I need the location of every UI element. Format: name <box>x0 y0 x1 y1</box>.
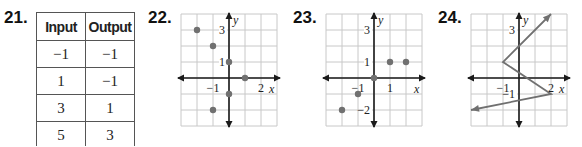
svg-text:1: 1 <box>219 55 225 69</box>
data-point <box>242 75 248 81</box>
data-point <box>194 27 200 33</box>
svg-text:x: x <box>268 82 275 96</box>
table-cell: 3 <box>86 122 135 147</box>
svg-text:y: y <box>522 13 529 27</box>
svg-text:−1: −1 <box>207 81 220 95</box>
table-cell: 1 <box>37 68 86 95</box>
data-point <box>339 107 345 113</box>
table-row: 31 <box>37 95 135 122</box>
svg-text:y: y <box>232 13 239 27</box>
svg-text:2: 2 <box>258 81 264 95</box>
arrow-head-icon <box>471 105 480 112</box>
graph-22: yx31−12 <box>176 12 282 130</box>
svg-text:3: 3 <box>364 23 370 37</box>
problem-number-24: 24. <box>438 8 462 28</box>
table-row: −1−1 <box>37 41 135 68</box>
input-output-table: Input Output −1−1 1−1 31 53 <box>36 12 135 146</box>
problem-number-22: 22. <box>148 8 172 28</box>
table-cell: −1 <box>37 41 86 68</box>
table-cell: 1 <box>86 95 135 122</box>
graph-23: yx31−2−11 <box>321 12 427 130</box>
data-point <box>210 43 216 49</box>
data-point <box>226 91 232 97</box>
data-point <box>387 59 393 65</box>
svg-text:3: 3 <box>219 23 225 37</box>
svg-text:1: 1 <box>364 55 370 69</box>
svg-text:x: x <box>413 82 420 96</box>
table-cell: 3 <box>37 95 86 122</box>
table-cell: −1 <box>86 68 135 95</box>
data-point <box>403 59 409 65</box>
svg-text:x: x <box>558 82 565 96</box>
graph-24: yx3−1−12 <box>466 12 572 130</box>
svg-text:−1: −1 <box>497 81 510 95</box>
table-cell: 5 <box>37 122 86 147</box>
table-cell: −1 <box>86 41 135 68</box>
data-point <box>210 107 216 113</box>
data-point <box>355 91 361 97</box>
table-header-output: Output <box>86 13 135 41</box>
table-row: 53 <box>37 122 135 147</box>
problem-number-21: 21. <box>4 8 28 28</box>
problem-number-23: 23. <box>293 8 317 28</box>
data-point <box>371 75 377 81</box>
svg-text:y: y <box>377 13 384 27</box>
svg-text:1: 1 <box>387 81 393 95</box>
table-row: 1−1 <box>37 68 135 95</box>
table-header-input: Input <box>37 13 86 41</box>
svg-text:−2: −2 <box>357 103 370 117</box>
svg-text:3: 3 <box>509 23 515 37</box>
data-point <box>226 59 232 65</box>
